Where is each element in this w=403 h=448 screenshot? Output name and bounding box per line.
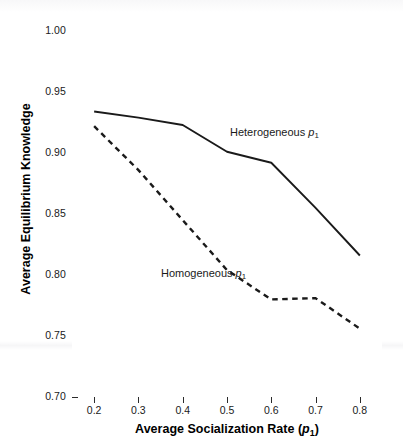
x-tick-mark — [138, 397, 139, 403]
x-tick-mark — [360, 397, 361, 403]
x-axis-title: Average Socialization Rate (p1) — [72, 422, 382, 438]
scan-artifact-top — [0, 0, 403, 12]
y-tick-label: 0.70 — [20, 390, 66, 402]
x-tick-label: 0.7 — [296, 404, 336, 416]
x-tick-label: 0.3 — [118, 404, 158, 416]
series-label-heterogeneous: Heterogeneous p1 — [230, 126, 319, 140]
x-tick-mark — [316, 397, 317, 403]
y-tick-mark — [72, 397, 78, 398]
series-line-heterogeneous — [94, 112, 360, 256]
x-tick-mark — [183, 397, 184, 403]
x-tick-label: 0.2 — [74, 404, 114, 416]
x-tick-mark — [271, 397, 272, 403]
x-tick-label: 0.5 — [207, 404, 247, 416]
chart-figure: 0.700.750.800.850.900.951.00 0.20.30.40.… — [0, 0, 403, 448]
x-tick-label: 0.6 — [251, 404, 291, 416]
x-tick-mark — [227, 397, 228, 403]
x-tick-label: 0.4 — [163, 404, 203, 416]
x-tick-mark — [94, 397, 95, 403]
x-tick-label: 0.8 — [340, 404, 380, 416]
series-line-homogeneous — [94, 126, 360, 329]
series-canvas — [72, 31, 382, 397]
y-axis-title: Average Equilibrium Knowledge — [19, 16, 33, 382]
plot-area: Heterogeneous p1 Homogeneous p1 — [72, 31, 382, 397]
series-label-homogeneous: Homogeneous p1 — [161, 267, 246, 281]
